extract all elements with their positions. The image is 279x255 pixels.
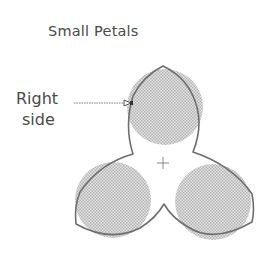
petal-diagram — [0, 0, 279, 255]
petal-fills — [75, 69, 251, 240]
center-cross-icon — [157, 157, 169, 169]
callout-arrow — [74, 100, 133, 106]
bottom-left-petal-fill — [75, 162, 151, 238]
top-petal-fill — [127, 69, 203, 145]
